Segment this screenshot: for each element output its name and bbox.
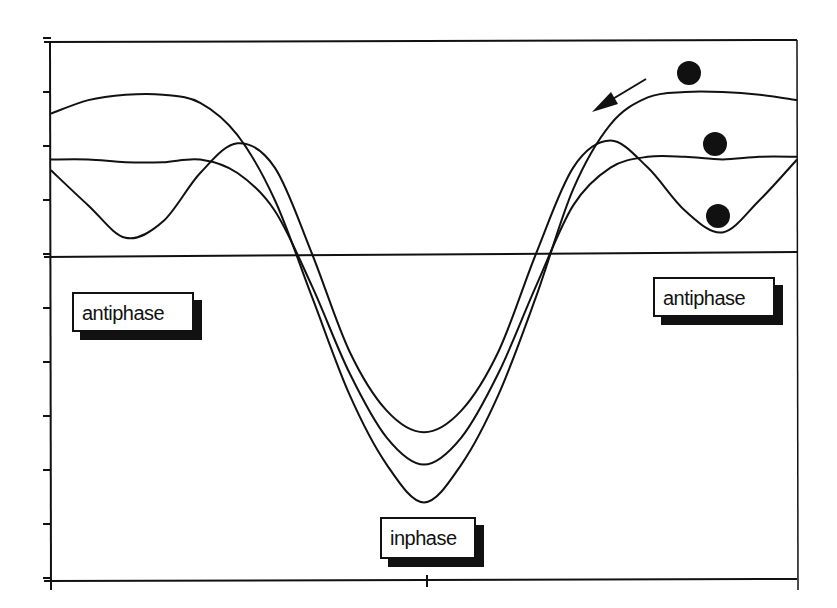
y-axis <box>50 42 51 590</box>
marker-dot-middle <box>703 132 727 156</box>
frame-right <box>797 40 798 590</box>
markers <box>677 61 730 228</box>
marker-dot-top <box>677 61 701 85</box>
frame-top <box>44 40 797 42</box>
marker-dot-bottom <box>706 204 730 228</box>
label-antiphase-left: antiphase <box>72 292 194 332</box>
label-antiphase-right: antiphase <box>653 277 775 317</box>
direction-arrow <box>592 79 646 112</box>
arrow-head-icon <box>592 92 618 112</box>
x-axis <box>44 579 797 581</box>
label-inphase: inphase <box>380 517 476 559</box>
zero-line <box>44 252 797 257</box>
